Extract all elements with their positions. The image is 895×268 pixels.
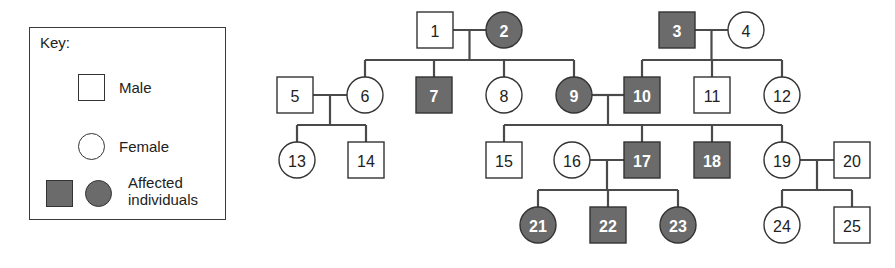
- individual-6: 6: [347, 77, 383, 113]
- individual-number: 16: [563, 153, 581, 170]
- individual-number: 22: [599, 218, 617, 235]
- individual-number: 10: [633, 88, 651, 105]
- individual-7-affected: 7: [416, 77, 452, 113]
- individual-number: 14: [357, 153, 375, 170]
- individual-3-affected: 3: [659, 12, 695, 48]
- individual-10-affected: 10: [624, 77, 660, 113]
- individual-19: 19: [764, 142, 800, 178]
- individual-number: 17: [633, 153, 651, 170]
- individual-number: 12: [773, 88, 791, 105]
- individual-number: 4: [742, 23, 751, 40]
- individual-21-affected: 21: [520, 207, 556, 243]
- individual-number: 8: [500, 88, 509, 105]
- individual-15: 15: [486, 142, 522, 178]
- pedigree-lines: [297, 30, 852, 207]
- individual-13: 13: [279, 142, 315, 178]
- individual-number: 11: [704, 88, 721, 105]
- individual-12: 12: [764, 77, 800, 113]
- individual-14: 14: [348, 142, 384, 178]
- individual-number: 7: [430, 88, 439, 105]
- individual-17-affected: 17: [624, 142, 660, 178]
- individual-number: 13: [288, 153, 306, 170]
- individual-number: 2: [500, 23, 509, 40]
- individual-2-affected: 2: [486, 12, 522, 48]
- individual-number: 25: [843, 218, 861, 235]
- individual-number: 5: [291, 88, 300, 105]
- individual-1: 1: [417, 12, 453, 48]
- individual-11: 11: [694, 77, 730, 113]
- individual-number: 23: [669, 218, 687, 235]
- individual-22-affected: 22: [590, 207, 626, 243]
- individual-20: 20: [834, 142, 870, 178]
- individual-18-affected: 18: [694, 142, 730, 178]
- individual-number: 15: [495, 153, 513, 170]
- individual-16: 16: [554, 142, 590, 178]
- individual-number: 20: [843, 153, 861, 170]
- individual-number: 19: [773, 153, 791, 170]
- individual-number: 21: [529, 218, 547, 235]
- individual-number: 1: [431, 23, 440, 40]
- individual-25: 25: [834, 207, 870, 243]
- individual-4: 4: [728, 12, 764, 48]
- individual-24: 24: [764, 207, 800, 243]
- individual-number: 9: [570, 88, 579, 105]
- individual-number: 18: [703, 153, 721, 170]
- individual-number: 6: [361, 88, 370, 105]
- individual-9-affected: 9: [556, 77, 592, 113]
- individual-5: 5: [277, 77, 313, 113]
- pedigree-chart: 1234567891011121314151617181920212223242…: [0, 0, 895, 268]
- individual-number: 3: [673, 23, 682, 40]
- individual-number: 24: [773, 218, 791, 235]
- individual-23-affected: 23: [660, 207, 696, 243]
- individual-8: 8: [486, 77, 522, 113]
